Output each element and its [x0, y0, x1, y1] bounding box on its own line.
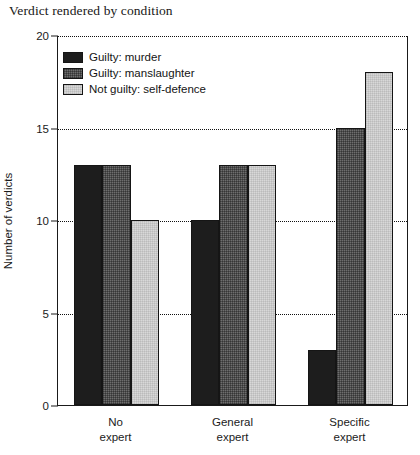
bar-specific-expert-series-2 [365, 72, 394, 405]
y-axis-title: Number of verdicts [2, 173, 14, 270]
chart-legend: Guilty: murderGuilty: manslaughterNot gu… [63, 51, 206, 96]
legend-label-0: Guilty: murder [89, 51, 161, 64]
bar-general-expert-series-2 [248, 165, 277, 406]
legend-label-2: Not guilty: self-defence [89, 83, 206, 96]
legend-swatch-icon-1 [63, 68, 83, 79]
legend-swatch-icon-0 [63, 52, 83, 63]
chart-title: Verdict rendered by condition [9, 3, 173, 19]
y-tick-label-0: 0 [15, 400, 49, 412]
legend-label-1: Guilty: manslaughter [89, 67, 194, 80]
bar-no-expert-series-2 [131, 220, 160, 405]
legend-item-2: Not guilty: self-defence [63, 83, 206, 96]
y-tick-label-20: 20 [15, 30, 49, 42]
y-tick-label-15: 15 [15, 123, 49, 135]
legend-item-1: Guilty: manslaughter [63, 67, 206, 80]
x-tick-label-general-expert: Generalexpert [173, 415, 293, 445]
legend-item-0: Guilty: murder [63, 51, 206, 64]
bar-general-expert-series-0 [191, 220, 220, 405]
x-tick-label-specific-expert: Specificexpert [290, 415, 410, 445]
bar-specific-expert-series-0 [308, 350, 337, 406]
bar-specific-expert-series-1 [336, 128, 365, 406]
y-tick-label-10: 10 [15, 215, 49, 227]
y-tick-label-5: 5 [15, 308, 49, 320]
bar-no-expert-series-1 [102, 165, 131, 406]
bar-general-expert-series-1 [219, 165, 248, 406]
chart-figure: Verdict rendered by condition Number of … [0, 0, 420, 455]
bar-no-expert-series-0 [74, 165, 103, 406]
legend-swatch-icon-2 [63, 84, 83, 95]
x-tick-label-no-expert: Noexpert [56, 415, 176, 445]
